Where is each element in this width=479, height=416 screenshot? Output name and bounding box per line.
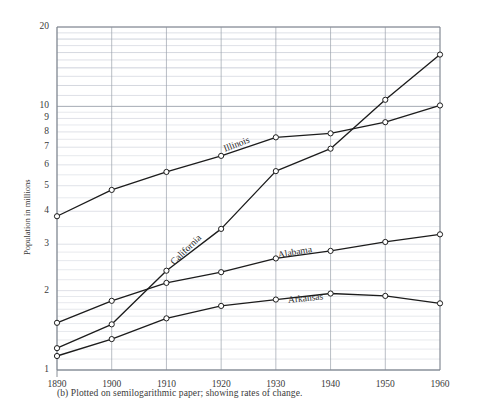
data-point <box>219 270 224 275</box>
data-point <box>383 97 388 102</box>
data-point <box>328 291 333 296</box>
data-point <box>383 120 388 125</box>
grid-minor-lines <box>57 33 440 359</box>
y-tick-label: 1 <box>23 364 49 374</box>
data-point <box>164 316 169 321</box>
data-point <box>328 146 333 151</box>
data-point <box>54 214 59 219</box>
y-tick-label: 9 <box>23 112 49 122</box>
data-point <box>164 268 169 273</box>
data-point <box>54 346 59 351</box>
x-tick-label: 1940 <box>311 379 351 389</box>
data-point <box>109 322 114 327</box>
figure-semilog-population: Population in millions 18901900191019201… <box>0 0 479 416</box>
x-tick-label: 1960 <box>420 379 460 389</box>
data-point <box>54 320 59 325</box>
figure-caption: (b) Plotted on semilogarithmic paper; sh… <box>57 388 303 398</box>
data-point <box>109 298 114 303</box>
y-tick-label: 3 <box>23 238 49 248</box>
y-tick-label: 2 <box>23 285 49 295</box>
data-point <box>54 353 59 358</box>
data-point <box>383 239 388 244</box>
y-tick-label: 4 <box>23 205 49 215</box>
data-point <box>109 336 114 341</box>
data-point <box>273 297 278 302</box>
y-tick-label: 6 <box>23 159 49 169</box>
data-point <box>109 187 114 192</box>
data-point <box>437 301 442 306</box>
series-markers <box>54 52 442 359</box>
data-point <box>219 153 224 158</box>
y-tick-label: 20 <box>23 21 49 31</box>
data-point <box>219 226 224 231</box>
data-point <box>164 280 169 285</box>
data-point <box>328 131 333 136</box>
series-line-alabama <box>57 234 440 322</box>
y-tick-label: 7 <box>23 141 49 151</box>
y-tick-label: 10 <box>23 100 49 110</box>
data-point <box>328 248 333 253</box>
data-point <box>437 103 442 108</box>
data-point <box>273 135 278 140</box>
chart-canvas <box>0 0 479 416</box>
x-tick-label: 1950 <box>365 379 405 389</box>
grid-major-lines <box>57 27 440 370</box>
y-tick-label: 8 <box>23 126 49 136</box>
y-tick-label: 5 <box>23 180 49 190</box>
data-point <box>383 293 388 298</box>
data-point <box>219 303 224 308</box>
data-point <box>437 232 442 237</box>
data-point <box>437 52 442 57</box>
data-point <box>273 169 278 174</box>
data-point <box>164 169 169 174</box>
